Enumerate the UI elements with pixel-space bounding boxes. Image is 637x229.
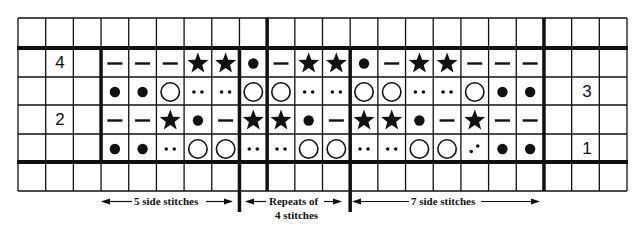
filled-dot-icon <box>525 144 535 154</box>
star-icon <box>215 53 236 73</box>
small-dot-icon <box>283 147 287 151</box>
small-dot-icon <box>441 90 445 94</box>
small-dot-icon <box>339 90 343 94</box>
filled-dot-icon <box>303 115 313 125</box>
small-dot-icon <box>476 144 480 148</box>
small-dot-icon <box>469 150 473 154</box>
star-icon <box>326 53 347 73</box>
small-dot-icon <box>192 90 196 94</box>
open-circle-icon <box>438 140 456 158</box>
filled-dot-icon <box>110 144 120 154</box>
arrow-right-icon <box>333 199 342 205</box>
knitting-chart <box>0 0 637 229</box>
open-circle-icon <box>466 83 484 101</box>
filled-dot-icon <box>497 144 507 154</box>
row-label-4: 4 <box>46 48 74 77</box>
star-icon <box>409 53 430 73</box>
star-icon <box>354 110 375 130</box>
small-dot-icon <box>247 147 251 151</box>
star-icon <box>464 110 485 130</box>
filled-dot-icon <box>248 58 258 68</box>
small-dot-icon <box>394 147 398 151</box>
arrow-left-icon <box>101 199 110 205</box>
filled-dot-icon <box>110 87 120 97</box>
small-dot-icon <box>255 147 259 151</box>
small-dot-icon <box>386 147 390 151</box>
filled-dot-icon <box>137 87 147 97</box>
small-dot-icon <box>422 90 426 94</box>
open-circle-icon <box>244 83 262 101</box>
row-label-1: 1 <box>573 134 601 163</box>
star-icon <box>437 53 458 73</box>
filled-dot-icon <box>414 115 424 125</box>
caption-repeats-line2: 4 stitches <box>275 209 318 221</box>
open-circle-icon <box>355 83 373 101</box>
open-circle-icon <box>327 140 345 158</box>
small-dot-icon <box>228 90 232 94</box>
open-circle-icon <box>216 140 234 158</box>
open-circle-icon <box>189 140 207 158</box>
filled-dot-icon <box>525 87 535 97</box>
filled-dot-icon <box>137 144 147 154</box>
open-circle-icon <box>161 83 179 101</box>
arrow-right-icon <box>224 199 233 205</box>
small-dot-icon <box>275 147 279 151</box>
open-circle-icon <box>299 140 317 158</box>
filled-dot-icon <box>497 87 507 97</box>
filled-dot-icon <box>193 115 203 125</box>
small-dot-icon <box>311 90 315 94</box>
arrow-left-icon <box>352 199 361 205</box>
star-icon <box>381 110 402 130</box>
arrow-right-icon <box>531 199 540 205</box>
small-dot-icon <box>449 90 453 94</box>
small-dot-icon <box>331 90 335 94</box>
caption-side-stitches-left: 5 side stitches <box>134 195 198 207</box>
small-dot-icon <box>200 90 204 94</box>
row-label-2: 2 <box>46 105 74 134</box>
row-label-3: 3 <box>573 77 601 106</box>
caption-repeats-line1: Repeats of <box>269 195 318 207</box>
small-dot-icon <box>220 90 224 94</box>
small-dot-icon <box>303 90 307 94</box>
star-icon <box>243 110 264 130</box>
star-icon <box>160 110 181 130</box>
small-dot-icon <box>172 147 176 151</box>
star-icon <box>188 53 209 73</box>
star-icon <box>271 110 292 130</box>
open-circle-icon <box>272 83 290 101</box>
small-dot-icon <box>366 147 370 151</box>
open-circle-icon <box>410 140 428 158</box>
open-circle-icon <box>383 83 401 101</box>
star-icon <box>298 53 319 73</box>
filled-dot-icon <box>359 58 369 68</box>
small-dot-icon <box>164 147 168 151</box>
caption-side-stitches-right: 7 side stitches <box>411 195 475 207</box>
small-dot-icon <box>358 147 362 151</box>
small-dot-icon <box>414 90 418 94</box>
arrow-left-icon <box>245 199 254 205</box>
